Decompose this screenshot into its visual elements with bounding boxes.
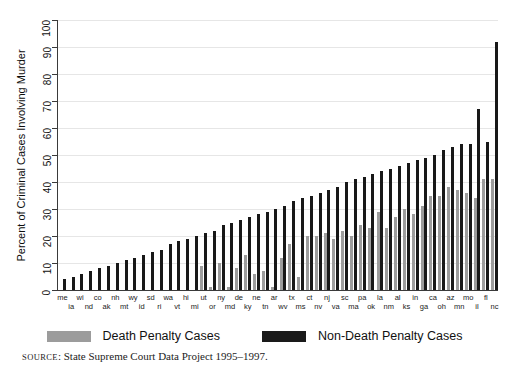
bar-death-penalty [280, 258, 283, 290]
bar-death-penalty [227, 287, 230, 290]
x-tick-label: ia [68, 302, 74, 311]
bar-non-death-penalty [89, 271, 92, 290]
bar-non-death-penalty [495, 42, 498, 290]
bar-death-penalty [341, 231, 344, 290]
x-tick-label: ny [217, 293, 225, 302]
bar-non-death-penalty [301, 198, 304, 290]
bar-death-penalty [306, 236, 309, 290]
x-tick-label: nj [324, 293, 330, 302]
bar-death-penalty [421, 206, 424, 290]
x-tick-label: ct [306, 293, 312, 302]
x-tick-label: sd [147, 293, 155, 302]
bar-non-death-penalty [133, 258, 136, 290]
bar-group [146, 19, 155, 290]
bar-group [279, 19, 288, 290]
bar-group [181, 19, 190, 290]
bar-non-death-penalty [177, 241, 180, 290]
bar-death-penalty [447, 187, 450, 290]
bar-non-death-penalty [213, 231, 216, 290]
bar-group [120, 19, 129, 290]
bar-group [208, 19, 217, 290]
bar-non-death-penalty [160, 250, 163, 291]
bar-non-death-penalty [416, 160, 419, 290]
bar-non-death-penalty [469, 144, 472, 290]
bar-non-death-penalty [319, 193, 322, 290]
x-tick-label: il [475, 302, 478, 311]
y-tick-label: 100 [42, 20, 53, 37]
bar-group [111, 19, 120, 290]
x-tick-label: ne [252, 293, 260, 302]
bar-non-death-penalty [230, 223, 233, 291]
bar-non-death-penalty [363, 177, 366, 290]
x-tick-label: ok [367, 302, 375, 311]
x-tick-label: tn [262, 302, 268, 311]
x-tick-label: az [447, 293, 455, 302]
bar-death-penalty [350, 236, 353, 290]
bar-death-penalty [297, 277, 300, 291]
bar-death-penalty [271, 287, 274, 290]
y-tick-mark [52, 182, 57, 183]
bar-death-penalty [377, 212, 380, 290]
x-tick-label: in [412, 293, 418, 302]
x-tick-label: id [139, 302, 145, 311]
y-tick-mark [52, 209, 57, 210]
bar-non-death-penalty [248, 217, 251, 290]
legend-label-death-penalty: Death Penalty Cases [103, 329, 220, 343]
bar-group [226, 19, 235, 290]
x-tick-label: co [94, 293, 102, 302]
x-tick-label: ut [200, 293, 206, 302]
x-axis-line [57, 290, 498, 291]
bar-non-death-penalty [266, 212, 269, 290]
bar-group [402, 19, 411, 290]
bar-group [199, 19, 208, 290]
x-tick-label: tx [289, 293, 295, 302]
bar-group [428, 19, 437, 290]
bar-non-death-penalty [442, 150, 445, 290]
bar-non-death-penalty [486, 142, 489, 291]
bar-group [93, 19, 102, 290]
bar-non-death-penalty [310, 196, 313, 291]
y-tick-label: 10 [42, 263, 53, 274]
bar-non-death-penalty [336, 187, 339, 290]
bar-death-penalty [200, 266, 203, 290]
x-tick-label: mi [191, 302, 199, 311]
bar-group [411, 19, 420, 290]
bar-non-death-penalty [257, 214, 260, 290]
x-tick-label: de [235, 293, 243, 302]
bar-death-penalty [209, 287, 212, 290]
bar-group [358, 19, 367, 290]
bar-group [367, 19, 376, 290]
chart-legend: Death Penalty Cases Non-Death Penalty Ca… [0, 325, 509, 347]
bar-non-death-penalty [116, 263, 119, 290]
bar-group [340, 19, 349, 290]
x-tick-label: me [57, 293, 67, 302]
bar-non-death-penalty [407, 163, 410, 290]
y-tick-mark [52, 290, 57, 291]
bar-death-penalty [491, 179, 494, 290]
x-axis-labels: meiawindcoaknhmtwyidsdriwavthimiutornymd… [58, 293, 499, 317]
bar-group [67, 19, 76, 290]
bar-death-penalty [394, 217, 397, 290]
y-tick-mark [52, 128, 57, 129]
bar-death-penalty [235, 268, 238, 290]
x-tick-label: mn [454, 302, 464, 311]
y-tick-mark [52, 101, 57, 102]
y-tick-label: 20 [42, 236, 53, 247]
y-tick-mark [52, 263, 57, 264]
bar-non-death-penalty [195, 236, 198, 290]
bar-non-death-penalty [398, 166, 401, 290]
bar-non-death-penalty [222, 225, 225, 290]
x-tick-label: wa [163, 293, 173, 302]
bar-group [384, 19, 393, 290]
bar-non-death-penalty [477, 109, 480, 290]
bar-death-penalty [332, 239, 335, 290]
x-tick-label: mt [120, 302, 128, 311]
bar-death-penalty [315, 236, 318, 290]
bar-non-death-penalty [142, 255, 145, 290]
x-tick-label: nh [111, 293, 119, 302]
bar-group [217, 19, 226, 290]
x-tick-label: ar [271, 293, 278, 302]
x-tick-label: va [332, 302, 340, 311]
x-tick-label: ri [157, 302, 161, 311]
bar-group [261, 19, 270, 290]
